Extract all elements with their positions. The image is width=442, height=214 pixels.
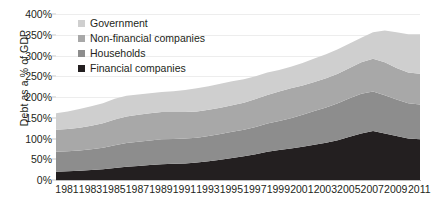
x-axis-tick-label: 1991 [173, 183, 196, 195]
y-axis-tick-mark [52, 14, 56, 15]
y-axis-tick-mark [52, 55, 56, 56]
y-axis-tick-mark [52, 34, 56, 35]
x-axis-tick-labels: 1981198319851987198919911993199519971999… [56, 183, 420, 201]
x-axis-tick-label: 2007 [361, 183, 384, 195]
x-axis-tick-label: 1981 [55, 183, 78, 195]
x-axis-tick-label: 1997 [243, 183, 266, 195]
legend-label: Financial companies [90, 62, 186, 74]
x-axis-tick-label: 1985 [102, 183, 125, 195]
x-axis-tick-label: 2011 [408, 183, 431, 195]
y-axis-tick-label: 400% [25, 8, 52, 20]
legend-swatch-icon [78, 35, 85, 42]
y-axis-tick-mark [52, 97, 56, 98]
x-axis-tick-label: 2009 [384, 183, 407, 195]
x-axis-tick-label: 1987 [126, 183, 149, 195]
legend-item: Financial companies [78, 61, 205, 75]
y-axis-tick-mark [52, 159, 56, 160]
legend-item: Households [78, 46, 205, 60]
y-axis-tick-label: 100% [25, 133, 52, 145]
legend-swatch-icon [78, 50, 85, 57]
x-axis-tick-label: 2003 [314, 183, 337, 195]
legend-label: Government [90, 17, 148, 29]
y-axis-tick-mark [52, 117, 56, 118]
legend-item: Non-financial companies [78, 31, 205, 45]
legend-swatch-icon [78, 20, 85, 27]
y-axis-tick-label: 150% [25, 112, 52, 124]
y-axis-tick-label: 50% [31, 153, 52, 165]
x-axis-tick-label: 1999 [267, 183, 290, 195]
legend-label: Non-financial companies [90, 32, 205, 44]
x-axis-tick-label: 1995 [220, 183, 243, 195]
x-axis-tick-label: 1993 [196, 183, 219, 195]
legend-item: Government [78, 16, 205, 30]
x-axis-tick-label: 1983 [79, 183, 102, 195]
stacked-area-chart: Debt as a % of GDP 0%50%100%150%200%250%… [0, 0, 442, 214]
y-axis-tick-mark [52, 76, 56, 77]
y-axis-tick-label: 0% [37, 174, 52, 186]
y-axis-tick-labels: 0%50%100%150%200%250%300%350%400% [16, 14, 52, 180]
y-axis-tick-label: 250% [25, 70, 52, 82]
legend-swatch-icon [78, 65, 85, 72]
y-axis-tick-label: 350% [25, 29, 52, 41]
y-axis-tick-label: 200% [25, 91, 52, 103]
x-axis-tick-label: 1989 [149, 183, 172, 195]
y-axis-tick-label: 300% [25, 50, 52, 62]
x-axis-tick-label: 2001 [290, 183, 313, 195]
x-axis-tick-label: 2005 [337, 183, 360, 195]
legend: GovernmentNon-financial companiesHouseho… [78, 16, 205, 76]
legend-label: Households [90, 47, 145, 59]
x-axis-line [56, 180, 421, 181]
y-axis-tick-mark [52, 180, 56, 181]
y-axis-tick-mark [52, 138, 56, 139]
